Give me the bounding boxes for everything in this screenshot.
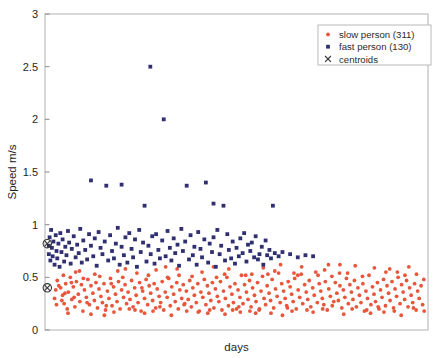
data-point-fast xyxy=(58,265,62,269)
data-point-slow xyxy=(147,284,151,288)
data-point-slow xyxy=(215,294,219,298)
data-point-slow xyxy=(245,290,249,294)
data-point-fast xyxy=(70,247,74,251)
data-point-slow xyxy=(390,280,394,284)
data-point-slow xyxy=(93,272,97,276)
data-point-slow xyxy=(319,289,323,293)
data-point-slow xyxy=(104,304,108,308)
data-point-fast xyxy=(153,262,157,266)
data-point-slow xyxy=(159,301,163,305)
data-point-fast xyxy=(143,204,147,208)
data-point-slow xyxy=(421,303,425,307)
data-point-fast xyxy=(212,202,216,206)
data-point-slow xyxy=(405,279,409,283)
data-point-fast xyxy=(49,228,53,232)
data-point-fast xyxy=(177,264,181,268)
data-point-fast xyxy=(80,261,84,265)
data-point-slow xyxy=(411,301,415,305)
legend-entry-label[interactable]: centroids xyxy=(339,54,378,65)
data-point-fast xyxy=(110,249,114,253)
data-point-fast xyxy=(268,248,272,252)
data-point-fast xyxy=(116,226,120,230)
data-point-slow xyxy=(237,305,241,309)
data-point-slow xyxy=(306,298,310,302)
y-tick-label: 0.5 xyxy=(23,271,38,283)
data-point-slow xyxy=(104,308,108,312)
data-point-fast xyxy=(191,253,195,257)
data-point-slow xyxy=(361,274,365,278)
data-point-slow xyxy=(184,289,188,293)
data-point-fast xyxy=(195,263,199,267)
data-point-slow xyxy=(372,266,376,270)
data-point-slow xyxy=(160,280,164,284)
data-point-fast xyxy=(103,240,107,244)
data-point-slow xyxy=(133,308,137,312)
data-point-slow xyxy=(68,275,72,279)
data-point-slow xyxy=(320,297,324,301)
data-point-slow xyxy=(241,302,245,306)
data-point-slow xyxy=(57,284,61,288)
data-point-slow xyxy=(128,298,132,302)
data-point-slow xyxy=(228,285,232,289)
data-point-slow xyxy=(325,308,329,312)
data-point-fast xyxy=(67,241,71,245)
data-point-slow xyxy=(305,308,309,312)
data-point-slow xyxy=(264,303,268,307)
data-point-slow xyxy=(204,303,208,307)
data-point-slow xyxy=(223,312,227,316)
data-point-slow xyxy=(173,300,177,304)
data-point-fast xyxy=(296,255,300,259)
data-point-slow xyxy=(209,299,213,303)
data-point-fast xyxy=(122,253,126,257)
data-point-slow xyxy=(141,289,145,293)
data-point-slow xyxy=(356,286,360,290)
data-point-slow xyxy=(78,300,82,304)
data-point-slow xyxy=(249,305,253,309)
data-point-fast xyxy=(225,232,229,236)
data-point-slow xyxy=(372,292,376,296)
data-point-slow xyxy=(117,280,121,284)
data-point-fast xyxy=(72,234,76,238)
data-point-fast xyxy=(242,231,246,235)
data-point-slow xyxy=(384,270,388,274)
data-point-slow xyxy=(366,297,370,301)
data-point-slow xyxy=(392,309,396,313)
data-point-fast xyxy=(265,253,269,257)
data-point-slow xyxy=(194,301,198,305)
data-point-fast xyxy=(130,247,134,251)
data-point-fast xyxy=(187,258,191,262)
data-point-fast xyxy=(93,236,97,240)
data-point-fast xyxy=(218,252,222,256)
data-point-slow xyxy=(169,313,173,317)
data-point-fast xyxy=(271,204,275,208)
data-point-slow xyxy=(65,307,69,311)
data-point-slow xyxy=(267,291,271,295)
data-point-slow xyxy=(296,273,300,277)
data-point-slow xyxy=(138,281,142,285)
data-point-slow xyxy=(78,269,82,273)
data-point-slow xyxy=(207,291,211,295)
data-point-fast xyxy=(238,236,242,240)
data-point-fast xyxy=(127,231,131,235)
legend-entry-label[interactable]: slow person (311) xyxy=(339,29,415,40)
legend[interactable]: slow person (311)fast person (130)centro… xyxy=(318,25,431,65)
data-point-slow xyxy=(96,306,100,310)
data-point-slow xyxy=(286,306,290,310)
data-point-slow xyxy=(166,275,170,279)
legend-entry-label[interactable]: fast person (130) xyxy=(339,41,412,52)
data-point-fast xyxy=(229,256,233,260)
data-point-slow xyxy=(238,295,242,299)
data-point-fast xyxy=(83,248,87,252)
data-point-fast xyxy=(104,184,108,188)
data-point-slow xyxy=(144,278,148,282)
data-point-slow xyxy=(208,308,212,312)
data-point-slow xyxy=(299,272,303,276)
data-point-slow xyxy=(266,272,270,276)
data-point-fast xyxy=(91,254,95,258)
data-point-slow xyxy=(219,280,223,284)
data-point-slow xyxy=(154,306,158,310)
data-point-slow xyxy=(261,274,265,278)
data-point-slow xyxy=(403,273,407,277)
data-point-slow xyxy=(384,304,388,308)
data-point-slow xyxy=(335,291,339,295)
